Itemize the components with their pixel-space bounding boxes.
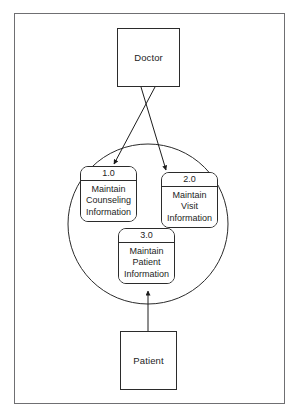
process-3-label: Maintain Patient Information bbox=[119, 243, 174, 283]
process-2-label-line-2: Visit bbox=[181, 201, 198, 213]
process-2-label-line-1: Maintain bbox=[172, 190, 206, 202]
process-2-maintain-visit-information[interactable]: 2.0 Maintain Visit Information bbox=[161, 172, 218, 228]
process-1-number: 1.0 bbox=[81, 167, 136, 181]
process-1-label: Maintain Counseling Information bbox=[81, 181, 136, 221]
process-1-label-line-1: Maintain bbox=[91, 184, 125, 196]
process-1-label-line-3: Information bbox=[86, 207, 131, 219]
external-entity-doctor[interactable]: Doctor bbox=[117, 28, 180, 87]
process-3-label-line-1: Maintain bbox=[129, 246, 163, 258]
diagram-page: Doctor 1.0 Maintain Counseling Informati… bbox=[0, 0, 299, 417]
process-1-maintain-counseling-information[interactable]: 1.0 Maintain Counseling Information bbox=[80, 166, 137, 222]
process-2-label: Maintain Visit Information bbox=[162, 187, 217, 227]
process-1-label-line-2: Counseling bbox=[86, 195, 131, 207]
process-2-number: 2.0 bbox=[162, 173, 217, 187]
process-3-label-line-2: Patient bbox=[132, 257, 160, 269]
external-entity-patient[interactable]: Patient bbox=[120, 331, 177, 390]
process-3-label-line-3: Information bbox=[124, 269, 169, 281]
process-3-maintain-patient-information[interactable]: 3.0 Maintain Patient Information bbox=[118, 228, 175, 284]
process-3-number: 3.0 bbox=[119, 229, 174, 243]
process-2-label-line-3: Information bbox=[167, 213, 212, 225]
